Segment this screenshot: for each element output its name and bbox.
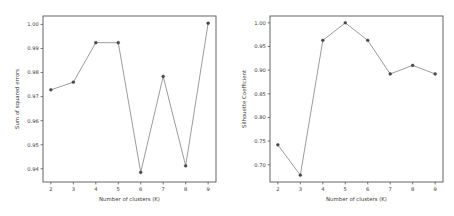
data-point-marker (411, 64, 414, 67)
data-point-marker (139, 171, 142, 174)
data-point-marker (344, 21, 347, 24)
x-axis-title: Number of clusters (K) (326, 196, 387, 202)
data-point-marker (299, 174, 302, 177)
data-point-marker (49, 88, 52, 91)
axis-frame (270, 16, 443, 182)
y-tick-label: 0.75 (254, 138, 266, 144)
y-tick-label: 0.85 (254, 91, 266, 97)
y-tick-label: 0.90 (254, 67, 266, 73)
x-tick-label: 9 (206, 186, 209, 192)
data-series-line (51, 23, 208, 172)
x-tick-label: 3 (72, 186, 75, 192)
x-tick-label: 2 (276, 186, 279, 192)
x-tick-label: 5 (344, 186, 347, 192)
chart-panel-silhouette-coefficient: 0.700.750.800.850.900.951.0023456789Numb… (227, 0, 454, 216)
y-tick-label: 0.96 (27, 118, 39, 124)
y-tick-label: 0.98 (27, 69, 39, 75)
data-point-marker (72, 81, 75, 84)
data-point-marker (94, 41, 97, 44)
x-tick-label: 4 (94, 186, 98, 192)
y-tick-label: 0.80 (254, 114, 266, 120)
x-tick-label: 7 (389, 186, 392, 192)
data-point-marker (366, 39, 369, 42)
x-tick-label: 8 (184, 186, 187, 192)
data-point-marker (434, 72, 437, 75)
data-point-marker (207, 22, 210, 25)
y-tick-label: 0.95 (27, 142, 39, 148)
data-point-marker (389, 72, 392, 75)
x-tick-label: 8 (411, 186, 414, 192)
y-axis-title: Sum of squared errors (14, 69, 21, 129)
y-tick-label: 1.00 (27, 21, 39, 27)
x-tick-label: 9 (433, 186, 436, 192)
y-tick-label: 0.70 (254, 162, 266, 168)
data-point-marker (162, 75, 165, 78)
data-point-marker (117, 41, 120, 44)
y-tick-label: 1.00 (254, 20, 266, 26)
chart-panel-sum-of-squared-errors: 0.940.950.960.970.980.991.0023456789Numb… (0, 0, 227, 216)
y-tick-label: 0.94 (27, 166, 39, 172)
sum-of-squared-errors-plot: 0.940.950.960.970.980.991.0023456789Numb… (0, 0, 227, 216)
x-tick-label: 6 (139, 186, 142, 192)
y-tick-label: 0.99 (27, 45, 39, 51)
data-series-line (278, 23, 435, 175)
y-tick-label: 0.97 (27, 93, 39, 99)
x-axis-title: Number of clusters (K) (99, 196, 160, 202)
y-axis-title: Silhouette Coefficient (241, 70, 247, 128)
figure-two-panel-cluster-metrics: 0.940.950.960.970.980.991.0023456789Numb… (0, 0, 454, 216)
x-tick-label: 2 (49, 186, 52, 192)
data-point-marker (184, 164, 187, 167)
x-tick-label: 4 (321, 186, 325, 192)
x-tick-label: 6 (366, 186, 369, 192)
x-tick-label: 7 (162, 186, 165, 192)
silhouette-coefficient-plot: 0.700.750.800.850.900.951.0023456789Numb… (227, 0, 454, 216)
axis-frame (43, 16, 216, 182)
data-point-marker (276, 143, 279, 146)
y-tick-label: 0.95 (254, 43, 266, 49)
data-point-marker (321, 39, 324, 42)
x-tick-label: 5 (117, 186, 120, 192)
x-tick-label: 3 (299, 186, 302, 192)
